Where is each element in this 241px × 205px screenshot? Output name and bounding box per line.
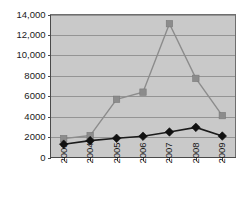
- data-point-marker-square: [166, 20, 172, 26]
- x-tick-label: 2006: [137, 142, 148, 163]
- data-point-marker-square: [219, 112, 225, 118]
- x-tick-label: 2009: [216, 142, 227, 163]
- x-tick-label: 2008: [190, 142, 201, 163]
- y-tick-label: 12,000: [16, 29, 45, 40]
- y-tick-label: 6000: [24, 90, 45, 101]
- y-tick-label: 14,000: [16, 9, 45, 20]
- y-tick-label: 0: [40, 152, 45, 163]
- x-tick-label: 2005: [111, 142, 122, 163]
- x-tick-label: 2004: [84, 142, 95, 163]
- y-tick-label: 10,000: [16, 49, 45, 60]
- x-tick-label: 2007: [163, 142, 174, 163]
- y-axis-tick-labels: 0200040006000800010,00012,00014,000: [16, 9, 45, 163]
- y-tick-label: 8000: [24, 70, 45, 81]
- line-chart: 0200040006000800010,00012,00014,000 2003…: [0, 0, 241, 205]
- y-tick-label: 4000: [24, 111, 45, 122]
- chart-figure: 0200040006000800010,00012,00014,000 2003…: [0, 0, 241, 205]
- y-tick-label: 2000: [24, 131, 45, 142]
- data-point-marker-square: [140, 89, 146, 95]
- data-point-marker-square: [193, 75, 199, 81]
- data-point-marker-square: [113, 96, 119, 102]
